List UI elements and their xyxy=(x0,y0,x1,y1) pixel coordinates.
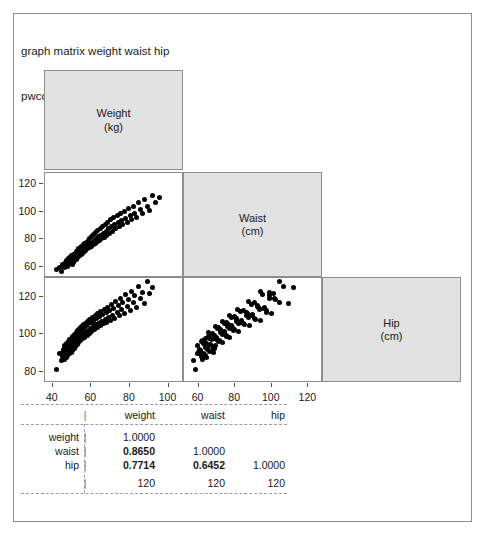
x-tick-label-waist-80: 80 xyxy=(219,392,249,403)
diagonal-label-name: Weight xyxy=(45,107,182,121)
corr-value-hip-waist: 0.6452 xyxy=(163,458,225,472)
data-point xyxy=(222,331,227,336)
x-tick-mark xyxy=(198,383,199,387)
observation-count-weight: 120 xyxy=(93,476,155,490)
data-point xyxy=(277,279,282,284)
y-tick-label-hip-100: 100 xyxy=(10,328,36,339)
data-point xyxy=(140,290,145,295)
x-tick-label-waist-60: 60 xyxy=(183,392,213,403)
data-point xyxy=(150,193,155,198)
diagonal-label-weight: Weight(kg) xyxy=(45,107,182,134)
x-tick-label-weight-100: 100 xyxy=(153,392,183,403)
diagonal-cell-hip: Hip(cm) xyxy=(322,277,461,382)
y-tick-mark xyxy=(39,371,43,372)
x-tick-label-weight-40: 40 xyxy=(37,392,67,403)
pipe-glyph: | xyxy=(82,458,88,472)
diagonal-cell-weight: Weight(kg) xyxy=(44,70,183,170)
data-point xyxy=(131,204,136,209)
x-tick-mark xyxy=(168,383,169,387)
y-tick-mark xyxy=(39,266,43,267)
y-tick-label-waist-100: 100 xyxy=(10,206,36,217)
x-tick-label-waist-120: 120 xyxy=(292,392,322,403)
y-tick-mark xyxy=(39,296,43,297)
observation-count-waist: 120 xyxy=(163,476,225,490)
diagonal-label-name: Hip xyxy=(323,317,460,331)
data-point xyxy=(134,305,139,310)
data-point xyxy=(136,284,141,289)
observation-count-hip: 120 xyxy=(223,476,285,490)
corr-value-waist-waist: 1.0000 xyxy=(163,444,225,458)
data-point xyxy=(142,197,147,202)
data-point xyxy=(238,320,243,325)
x-tick-mark xyxy=(307,383,308,387)
data-point xyxy=(157,195,162,200)
data-point xyxy=(147,208,152,213)
diagonal-cell-waist: Waist(cm) xyxy=(183,172,322,277)
table-header-row: |weightwaisthip xyxy=(21,408,287,422)
data-point xyxy=(281,284,286,289)
data-point xyxy=(54,367,59,372)
data-point xyxy=(136,200,141,205)
corr-value-weight-weight: 1.0000 xyxy=(93,430,155,444)
table-rule-header xyxy=(21,424,287,425)
screenshot-page: graph matrix weight waist hip pwcorr wei… xyxy=(0,0,486,535)
data-point xyxy=(191,358,196,363)
scatter-panel-waist-vs-weight xyxy=(44,172,183,277)
table-rule-bottom xyxy=(21,493,287,494)
y-tick-label-hip-120: 120 xyxy=(10,291,36,302)
column-header-hip: hip xyxy=(223,408,285,422)
data-point xyxy=(291,285,296,290)
y-tick-label-hip-80: 80 xyxy=(10,366,36,377)
pipe-glyph: | xyxy=(82,444,88,458)
table-row-observations: |120120120 xyxy=(21,476,287,490)
diagonal-label-name: Waist xyxy=(184,212,321,226)
data-point xyxy=(132,293,137,298)
scatter-panel-hip-vs-weight xyxy=(44,277,183,382)
table-row-weight: weight|1.0000 xyxy=(21,430,287,444)
data-point xyxy=(277,300,282,305)
y-tick-label-waist-60: 60 xyxy=(10,261,36,272)
table-rule-top xyxy=(21,404,287,405)
data-point xyxy=(262,305,267,310)
x-tick-mark xyxy=(129,383,130,387)
diagonal-label-waist: Waist(cm) xyxy=(184,212,321,239)
x-tick-label-weight-60: 60 xyxy=(75,392,105,403)
y-tick-label-waist-120: 120 xyxy=(10,178,36,189)
scatter-panel-hip-vs-waist xyxy=(183,277,322,382)
corr-value-waist-weight: 0.8650 xyxy=(93,444,155,458)
data-point xyxy=(122,311,127,316)
column-header-weight: weight xyxy=(93,408,155,422)
pipe-glyph: | xyxy=(82,476,88,490)
data-point xyxy=(236,329,241,334)
data-point xyxy=(258,318,263,323)
data-point xyxy=(244,313,249,318)
x-tick-mark xyxy=(271,383,272,387)
row-label-hip: hip xyxy=(21,458,79,472)
row-label-waist: waist xyxy=(21,444,79,458)
data-point xyxy=(255,304,260,309)
diagonal-label-unit: (cm) xyxy=(184,225,321,239)
pipe-glyph: | xyxy=(82,430,88,444)
data-point xyxy=(142,301,147,306)
data-point xyxy=(258,289,263,294)
corr-value-hip-weight: 0.7714 xyxy=(93,458,155,472)
diagonal-label-unit: (cm) xyxy=(323,330,460,344)
column-header-waist: waist xyxy=(163,408,225,422)
table-row-hip: hip|0.77140.64521.0000 xyxy=(21,458,287,472)
data-point xyxy=(140,211,145,216)
y-tick-mark xyxy=(39,238,43,239)
table-column-separator xyxy=(84,424,85,493)
x-tick-label-weight-80: 80 xyxy=(114,392,144,403)
diagonal-label-unit: (kg) xyxy=(45,121,182,135)
data-point xyxy=(147,291,152,296)
data-point xyxy=(153,200,158,205)
pipe-glyph: | xyxy=(82,408,88,422)
data-point xyxy=(193,367,198,372)
corr-value-hip-hip: 1.0000 xyxy=(223,458,285,472)
data-point xyxy=(128,308,133,313)
data-point xyxy=(269,311,274,316)
data-point xyxy=(286,301,291,306)
x-tick-mark xyxy=(52,383,53,387)
y-tick-mark xyxy=(39,333,43,334)
data-point xyxy=(134,215,139,220)
